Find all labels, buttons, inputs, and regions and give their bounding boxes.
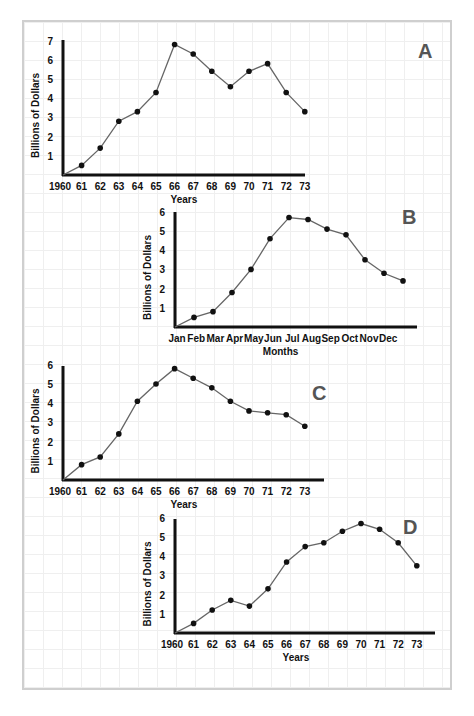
data-point bbox=[343, 232, 349, 238]
data-point bbox=[395, 540, 401, 546]
x-tick-label: 1960 bbox=[49, 486, 72, 497]
x-axis-label: Years bbox=[171, 499, 198, 510]
charts-canvas: 1234567Billions of Dollars19606162636465… bbox=[0, 0, 474, 716]
x-tick-label: Feb bbox=[187, 333, 205, 344]
data-point bbox=[228, 84, 234, 90]
data-point bbox=[362, 257, 368, 263]
data-point bbox=[248, 267, 254, 273]
y-tick-label: 4 bbox=[47, 93, 53, 104]
x-tick-label: 70 bbox=[243, 486, 255, 497]
x-tick-label: Jun bbox=[264, 333, 282, 344]
chart-panel-c: 123456Billions of Dollars196061626364656… bbox=[30, 360, 326, 510]
x-tick-label: 66 bbox=[169, 486, 181, 497]
data-point bbox=[228, 598, 234, 604]
x-tick-label: 67 bbox=[188, 181, 200, 192]
x-tick-label: 71 bbox=[374, 639, 386, 650]
x-tick-label: 70 bbox=[243, 181, 255, 192]
x-tick-label: 67 bbox=[188, 486, 200, 497]
y-tick-label: 4 bbox=[159, 245, 165, 256]
data-point bbox=[324, 226, 330, 232]
x-tick-label: 69 bbox=[225, 181, 237, 192]
x-tick-label: Sep bbox=[321, 333, 339, 344]
y-tick-label: 4 bbox=[47, 398, 53, 409]
data-point bbox=[97, 454, 103, 460]
y-tick-label: 6 bbox=[47, 55, 53, 66]
y-tick-label: 5 bbox=[47, 379, 53, 390]
y-axis-label: Billions of Dollars bbox=[142, 541, 153, 626]
y-tick-label: 2 bbox=[159, 590, 165, 601]
panel-letter: A bbox=[418, 40, 432, 62]
x-tick-label: 69 bbox=[225, 486, 237, 497]
x-tick-label: 73 bbox=[411, 639, 423, 650]
x-tick-label: 64 bbox=[132, 486, 144, 497]
data-point bbox=[116, 118, 122, 124]
x-tick-label: 67 bbox=[300, 639, 312, 650]
y-tick-label: 1 bbox=[159, 303, 165, 314]
y-tick-label: 1 bbox=[47, 151, 53, 162]
x-tick-label: 63 bbox=[225, 639, 237, 650]
data-point bbox=[209, 385, 215, 391]
y-axis-label: Billions of Dollars bbox=[30, 73, 41, 158]
data-point bbox=[377, 527, 383, 533]
x-tick-label: Jul bbox=[285, 333, 300, 344]
data-point bbox=[153, 90, 159, 96]
y-tick-label: 3 bbox=[159, 570, 165, 581]
data-point bbox=[228, 398, 234, 404]
data-point bbox=[283, 90, 289, 96]
x-tick-label: 65 bbox=[150, 181, 162, 192]
data-point bbox=[209, 607, 215, 613]
y-tick-label: 6 bbox=[159, 513, 165, 524]
x-tick-label: 63 bbox=[113, 486, 125, 497]
y-tick-label: 5 bbox=[159, 226, 165, 237]
x-tick-label: Nov bbox=[360, 333, 379, 344]
data-line bbox=[175, 524, 417, 633]
x-tick-label: 66 bbox=[169, 181, 181, 192]
data-point bbox=[284, 559, 290, 565]
y-tick-label: 2 bbox=[47, 437, 53, 448]
data-point bbox=[286, 215, 292, 221]
data-point bbox=[400, 278, 406, 284]
x-tick-label: 69 bbox=[337, 639, 349, 650]
x-tick-label: 71 bbox=[262, 486, 274, 497]
y-tick-label: 3 bbox=[47, 417, 53, 428]
data-point bbox=[209, 69, 215, 75]
y-tick-label: 1 bbox=[159, 609, 165, 620]
data-point bbox=[267, 236, 273, 242]
x-tick-label: 68 bbox=[318, 639, 330, 650]
x-tick-label: 62 bbox=[95, 181, 107, 192]
data-line bbox=[175, 218, 403, 327]
data-point bbox=[191, 621, 197, 627]
data-point bbox=[210, 309, 216, 315]
y-tick-label: 1 bbox=[47, 456, 53, 467]
x-tick-label: 1960 bbox=[161, 639, 184, 650]
data-point bbox=[358, 521, 364, 527]
y-axis-label: Billions of Dollars bbox=[142, 235, 153, 320]
x-tick-label: Aug bbox=[302, 333, 321, 344]
data-point bbox=[79, 163, 85, 169]
x-axis-label: Months bbox=[263, 346, 299, 357]
x-tick-label: Mar bbox=[207, 333, 225, 344]
data-line bbox=[63, 369, 305, 480]
x-tick-label: 61 bbox=[76, 486, 88, 497]
x-tick-label: 71 bbox=[262, 181, 274, 192]
x-axis-label: Years bbox=[283, 652, 310, 663]
data-point bbox=[265, 586, 271, 592]
x-tick-label: 65 bbox=[262, 639, 274, 650]
data-point bbox=[190, 375, 196, 381]
data-point bbox=[116, 431, 122, 437]
x-tick-label: 64 bbox=[244, 639, 256, 650]
data-point bbox=[340, 528, 346, 534]
data-point bbox=[246, 408, 252, 414]
x-tick-label: 62 bbox=[95, 486, 107, 497]
data-point bbox=[191, 315, 197, 321]
x-tick-label: 1960 bbox=[49, 181, 72, 192]
data-point bbox=[321, 540, 327, 546]
x-tick-label: Jan bbox=[168, 333, 185, 344]
x-tick-label: 72 bbox=[281, 181, 293, 192]
data-point bbox=[190, 51, 196, 57]
y-tick-label: 3 bbox=[159, 264, 165, 275]
y-tick-label: 3 bbox=[47, 112, 53, 123]
data-point bbox=[265, 61, 271, 67]
data-point bbox=[247, 603, 253, 609]
chart-panel-b: 123456Billions of DollarsJanFebMarAprMay… bbox=[142, 206, 417, 357]
